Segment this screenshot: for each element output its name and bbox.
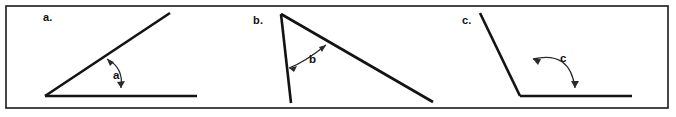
figure-canvas: a. a b. b c. c: [0, 0, 676, 117]
angles-figure: a. a b. b c. c: [0, 0, 676, 117]
panel-b-part-label: b.: [253, 14, 263, 26]
panel-c-angle-label: c: [560, 52, 567, 64]
panel-a-part-label: a.: [43, 11, 53, 23]
panel-c-part-label: c.: [462, 14, 472, 26]
panel-b-angle-label: b: [309, 53, 316, 65]
panel-a-angle-label: a: [113, 69, 120, 81]
